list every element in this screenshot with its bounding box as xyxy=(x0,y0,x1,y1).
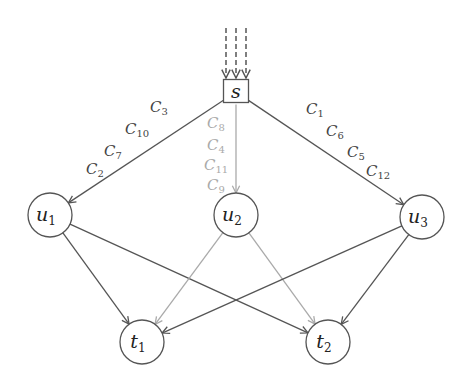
edge-label-s-u2-c8: C8 xyxy=(207,114,225,133)
node-label: s xyxy=(231,80,241,102)
edge-label-s-u3-c12: C12 xyxy=(366,162,390,181)
edge-label-s-u3-c5: C5 xyxy=(347,143,365,162)
node-u3: u3 xyxy=(400,195,444,239)
edge-label-s-u1-c7: C7 xyxy=(104,142,122,161)
node-u2: u2 xyxy=(214,193,258,237)
edge-label-s-u1-c3: C3 xyxy=(150,98,168,117)
edge-label-s-u2-c9: C9 xyxy=(207,176,225,195)
edge-labels-layer: C3C10C7C2C8C4C11C9C1C6C5C12 xyxy=(86,98,390,195)
edge-label-s-u3-c6: C6 xyxy=(326,122,344,141)
edge-label-s-u1-c10: C10 xyxy=(125,120,149,139)
incoming-source-arrows xyxy=(226,28,246,78)
edge-u3-t1 xyxy=(162,226,402,333)
node-t2: t2 xyxy=(306,320,350,364)
edge-s-u3 xyxy=(249,100,404,204)
edge-label-s-u2-c4: C4 xyxy=(207,136,225,155)
edge-label-s-u3-c1: C1 xyxy=(306,100,324,119)
node-t1: t1 xyxy=(120,320,164,364)
edge-label-s-u1-c2: C2 xyxy=(86,160,104,179)
flow-network-diagram: su1u2u3t1t2 C3C10C7C2C8C4C11C9C1C6C5C12 xyxy=(0,0,471,385)
edge-s-u1 xyxy=(68,100,223,203)
node-u1: u1 xyxy=(28,193,72,237)
edge-label-s-u2-c11: C11 xyxy=(204,156,228,175)
node-s: s xyxy=(224,80,249,103)
